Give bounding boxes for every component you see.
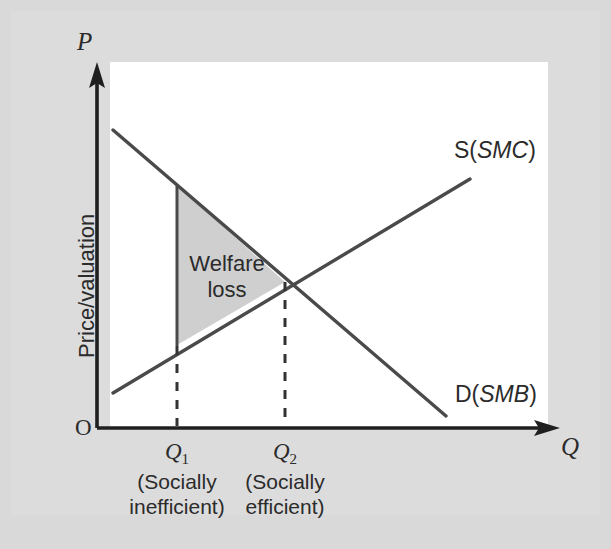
economics-diagram-figure: P Q O Price/valuation Welfareloss S(SMC)… — [0, 0, 611, 549]
demand-label-suffix: ) — [529, 381, 537, 407]
supply-label-italic: SMC — [477, 137, 528, 163]
demand-curve-label: D(SMB) — [455, 381, 537, 408]
q2-caption: (Sociallyefficient) — [205, 470, 365, 520]
supply-label-prefix: S( — [454, 137, 477, 163]
welfare-loss-label: Welfareloss — [167, 251, 287, 303]
welfare-loss-line-2: loss — [207, 277, 246, 302]
q1-subscript: 1 — [182, 451, 190, 467]
welfare-loss-line-1: Welfare — [189, 251, 264, 276]
y-axis-title: Price/valuation — [74, 214, 100, 358]
x-axis-symbol: Q — [561, 432, 579, 462]
demand-label-prefix: D( — [455, 381, 479, 407]
q2-symbol-text: Q — [273, 439, 290, 464]
supply-label-suffix: ) — [528, 137, 536, 163]
q2-subscript: 2 — [290, 451, 298, 467]
origin-label: O — [75, 414, 92, 441]
q2-caption-line-1: (Socially — [245, 470, 324, 493]
q2-caption-line-2: efficient) — [246, 495, 325, 518]
supply-curve-label: S(SMC) — [454, 137, 536, 164]
demand-label-italic: SMB — [479, 381, 529, 407]
y-axis-symbol: P — [77, 27, 92, 57]
q1-symbol-text: Q — [165, 439, 182, 464]
q2-tick-symbol: Q2 — [205, 438, 365, 465]
